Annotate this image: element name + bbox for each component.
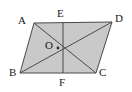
label-point-e: E [57, 8, 64, 19]
geometry-figure: A D B C E F O [0, 0, 132, 92]
point-o-marker [57, 47, 60, 50]
label-point-o: O [45, 40, 53, 51]
label-point-b: B [9, 67, 16, 78]
label-point-a: A [18, 15, 26, 26]
label-point-d: D [115, 13, 123, 24]
label-point-f: F [59, 77, 65, 88]
label-point-c: C [99, 67, 106, 78]
